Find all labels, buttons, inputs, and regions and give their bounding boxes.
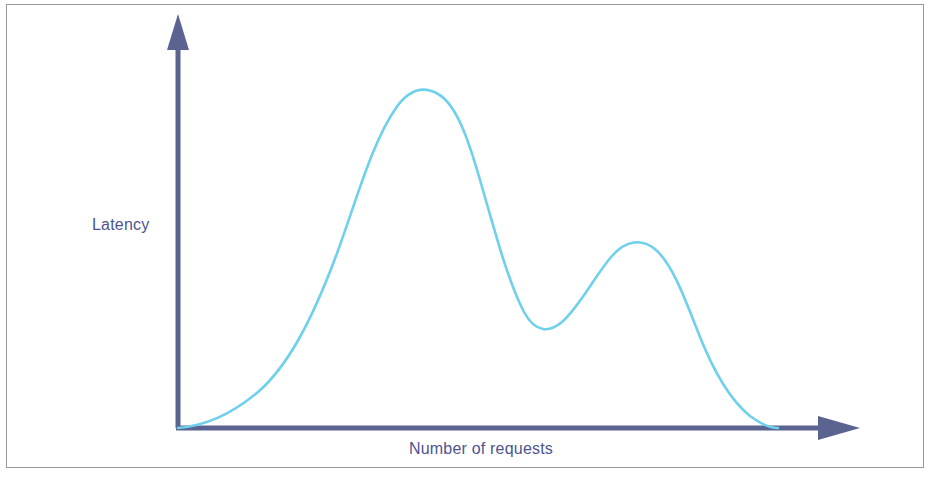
chart-plot-area (0, 0, 932, 477)
arrow-right-icon (818, 416, 860, 440)
figure-container: Latency Number of requests (0, 0, 932, 477)
latency-curve (178, 90, 778, 428)
x-axis-label: Number of requests (0, 440, 932, 458)
arrow-up-icon (167, 14, 189, 50)
y-axis-label: Latency (92, 216, 149, 234)
